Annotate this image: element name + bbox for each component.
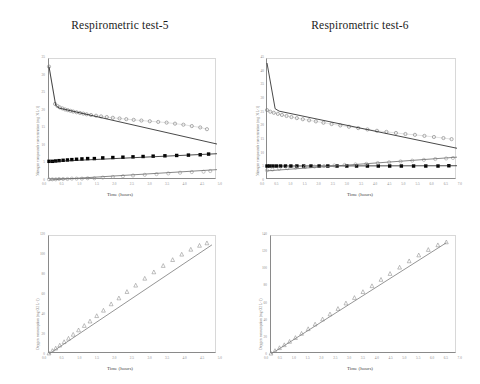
x-tick-label: 3.5 [359, 182, 363, 186]
series-ammonium-measured [265, 108, 453, 140]
y-tick-label: 10 [42, 143, 45, 147]
y-tick-labels-top-left: 35302520151050 [30, 55, 45, 182]
x-tick-label: 0.5 [278, 356, 282, 360]
x-tick-label: 4.0 [183, 356, 187, 360]
x-tick-label: 0.0 [42, 182, 46, 186]
plot-area-top-right [266, 58, 456, 179]
y-tick-label: 25 [261, 110, 264, 114]
y-tick-label: 40 [264, 318, 267, 322]
x-tick-label: 3.5 [361, 356, 365, 360]
x-tick-label: 3.0 [147, 356, 151, 360]
plot-area-top-left [48, 58, 216, 179]
x-tick-labels-bottom-left: 0.00.51.01.52.02.53.03.54.04.55.0 [42, 356, 222, 360]
x-tick-label: 1.0 [292, 356, 296, 360]
x-tick-labels-top-left: 0.00.51.01.52.02.53.03.54.04.55.0 [42, 182, 222, 186]
plot-canvas-top-left [49, 59, 217, 180]
x-tick-label: 2.0 [112, 356, 116, 360]
x-tick-label: 1.5 [95, 356, 99, 360]
x-tick-label: 4.0 [373, 182, 377, 186]
x-tick-label: 1.5 [95, 182, 99, 186]
y-tick-label: 40 [42, 312, 45, 316]
x-tick-label: 0.0 [260, 182, 264, 186]
series-nitrate-model-fit [49, 170, 217, 180]
y-tick-label: 5 [262, 164, 264, 168]
y-tick-label: 20 [261, 123, 264, 127]
panel-title-test-6: Respirometric test-6 [240, 19, 480, 31]
y-tick-label: 35 [261, 82, 264, 86]
y-tick-labels-top-right: 454035302520151050 [250, 55, 264, 182]
x-tick-label: 2.5 [130, 182, 134, 186]
y-tick-label: 45 [261, 55, 264, 59]
y-tick-label: 80 [42, 272, 45, 276]
x-tick-label: 2.0 [319, 356, 323, 360]
y-tick-label: 25 [42, 90, 45, 94]
x-axis-label-top-left: Time (hours) [0, 192, 240, 197]
x-tick-label: 1.0 [77, 182, 81, 186]
plot-canvas-bottom-left [49, 236, 217, 354]
x-tick-label: 5.0 [402, 356, 406, 360]
x-tick-label: 2.5 [333, 356, 337, 360]
y-tick-labels-bottom-left: 120100806040200 [30, 232, 45, 356]
panel-bottom-left: Oxygen consumption (mg O2 L-1) 120100806… [0, 200, 240, 384]
x-tick-label: 7.0 [458, 182, 462, 186]
y-tick-label: 120 [262, 249, 267, 253]
series-oxygen-consumption-measured [47, 241, 209, 355]
y-tick-label: 100 [262, 266, 267, 270]
x-tick-label: 3.0 [147, 182, 151, 186]
x-tick-label: 5.5 [415, 182, 419, 186]
x-tick-label: 5.0 [218, 182, 222, 186]
plot-canvas-top-right [267, 59, 457, 180]
y-tick-label: 140 [262, 232, 267, 236]
panel-bottom-right: Oxygen consumption (mg O2 L-1) 140120100… [240, 200, 480, 384]
x-tick-label: 6.0 [430, 356, 434, 360]
y-tick-label: 20 [264, 335, 267, 339]
x-tick-label: 3.0 [345, 182, 349, 186]
x-tick-label: 3.5 [165, 182, 169, 186]
respirometric-figure: Respirometric test-5 Nitrogen compounds … [0, 0, 480, 384]
x-tick-label: 4.5 [200, 356, 204, 360]
x-tick-label: 0.5 [274, 182, 278, 186]
y-tick-label: 30 [261, 96, 264, 100]
x-tick-label: 6.5 [444, 356, 448, 360]
y-tick-label: 5 [43, 160, 45, 164]
series-oxygen-consumption-model-fit [49, 245, 212, 354]
x-tick-label: 7.0 [458, 356, 462, 360]
x-tick-label: 3.5 [165, 356, 169, 360]
y-tick-label: 35 [42, 55, 45, 59]
x-tick-label: 1.5 [305, 356, 309, 360]
y-tick-label: 60 [42, 292, 45, 296]
x-tick-label: 0.0 [42, 356, 46, 360]
x-tick-label: 2.5 [130, 356, 134, 360]
y-tick-label: 60 [264, 301, 267, 305]
y-tick-label: 20 [42, 108, 45, 112]
x-tick-labels-top-right: 0.00.51.01.52.02.53.03.54.04.55.05.56.06… [260, 182, 462, 186]
series-nitrate-model-fit [267, 157, 457, 171]
x-axis-label-bottom-right: Time (hours) [240, 366, 480, 371]
y-tick-label: 40 [261, 69, 264, 73]
y-tick-label: 10 [261, 151, 264, 155]
series-ammonium-model-fit [267, 63, 457, 148]
x-tick-label: 4.5 [388, 356, 392, 360]
panel-top-right: Respirometric test-6 Nitrogen compounds … [240, 0, 480, 200]
x-tick-label: 4.0 [375, 356, 379, 360]
y-tick-label: 15 [261, 137, 264, 141]
panel-title-test-5: Respirometric test-5 [0, 19, 240, 31]
x-tick-label: 4.5 [387, 182, 391, 186]
panel-top-left: Respirometric test-5 Nitrogen compounds … [0, 0, 240, 200]
y-tick-label: 100 [40, 252, 45, 256]
y-tick-label: 80 [264, 283, 267, 287]
x-tick-label: 1.5 [302, 182, 306, 186]
x-tick-label: 4.0 [183, 182, 187, 186]
x-tick-label: 5.0 [218, 356, 222, 360]
x-tick-label: 6.0 [430, 182, 434, 186]
series-oxygen-consumption-model-fit [271, 243, 446, 354]
series-ammonium-model-fit [49, 67, 217, 144]
x-axis-label-bottom-left: Time (hours) [0, 366, 240, 371]
x-tick-label: 2.0 [112, 182, 116, 186]
x-tick-label: 1.0 [77, 356, 81, 360]
x-tick-label: 5.5 [416, 356, 420, 360]
x-tick-label: 5.0 [401, 182, 405, 186]
y-tick-label: 120 [40, 232, 45, 236]
plot-area-bottom-left [48, 235, 216, 353]
y-tick-label: 15 [42, 125, 45, 129]
